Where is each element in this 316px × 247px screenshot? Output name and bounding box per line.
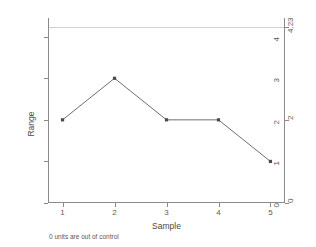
- x-tick-label: 1: [60, 209, 64, 217]
- data-point-marker: [165, 118, 168, 121]
- y-tick-label-right: 0: [287, 199, 295, 203]
- x-axis-title: Sample: [48, 221, 285, 231]
- x-tick-label: 3: [164, 209, 168, 217]
- series-plot: [48, 18, 285, 203]
- y-tick-right: [285, 120, 289, 121]
- range-series-markers: [61, 77, 272, 163]
- data-point-marker: [113, 77, 116, 80]
- y-axis-title: Range: [26, 111, 36, 136]
- range-control-chart: Range 01234 024.23 12345 Sample 0 units …: [0, 0, 316, 247]
- y-tick-label-left: 0: [273, 203, 281, 207]
- data-point-marker: [269, 160, 272, 163]
- y-tick-label-right: 2: [287, 115, 295, 119]
- x-tick: [270, 203, 271, 207]
- x-tick-label: 4: [216, 209, 220, 217]
- out-of-control-note: 0 units are out of control: [49, 233, 119, 240]
- x-tick: [219, 203, 220, 207]
- x-tick: [115, 203, 116, 207]
- data-point-marker: [217, 118, 220, 121]
- data-point-marker: [61, 118, 64, 121]
- x-tick: [167, 203, 168, 207]
- y-tick-left: [44, 203, 48, 204]
- y-tick-right: [285, 203, 289, 204]
- x-tick-label: 2: [112, 209, 116, 217]
- y-tick-label-right: 4.23: [287, 18, 295, 34]
- x-tick: [63, 203, 64, 207]
- x-tick-label: 5: [268, 209, 272, 217]
- plot-area: 01234 024.23 12345: [48, 18, 285, 203]
